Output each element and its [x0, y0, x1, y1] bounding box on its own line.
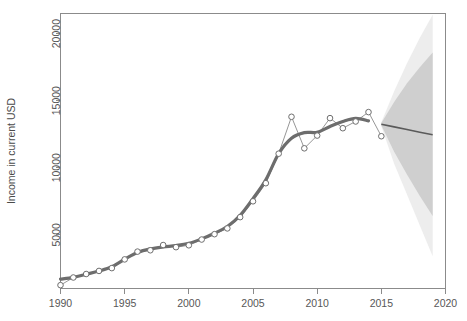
y-tick-label: 10000 [50, 153, 62, 182]
y-axis-title: Income in current USD [5, 97, 17, 204]
data-point-marker [109, 265, 115, 271]
data-point-marker [353, 119, 359, 125]
data-point-marker [186, 243, 192, 249]
x-axis-ticks: 1990199520002005201020152020 [49, 289, 458, 309]
data-point-marker [148, 247, 154, 253]
data-point-marker [83, 271, 89, 277]
x-tick-label: 2015 [370, 297, 394, 309]
x-tick-label: 2020 [434, 297, 458, 309]
smoothed-trend-line [61, 118, 369, 279]
data-point-marker [250, 199, 256, 205]
income-forecast-chart: 5000100001500020000 19901995200020052010… [0, 0, 467, 321]
data-point-marker [289, 114, 295, 120]
plot-frame [61, 14, 446, 289]
data-point-marker [173, 244, 179, 250]
y-tick-label: 15000 [50, 86, 62, 115]
y-tick-label: 5000 [50, 223, 62, 247]
x-tick-label: 2005 [241, 297, 265, 309]
data-point-marker [212, 231, 218, 237]
x-tick-label: 1995 [113, 297, 137, 309]
x-tick-label: 2000 [177, 297, 201, 309]
data-point-marker [302, 146, 308, 152]
chart-container: 5000100001500020000 19901995200020052010… [0, 0, 467, 321]
data-point-marker [379, 133, 385, 139]
data-point-marker [225, 226, 231, 232]
data-point-marker [96, 268, 102, 274]
x-tick-label: 1990 [49, 297, 73, 309]
data-point-marker [314, 133, 320, 139]
data-point-marker [71, 275, 77, 281]
data-point-marker [237, 214, 243, 220]
data-point-marker [276, 151, 282, 157]
data-point-marker [58, 282, 64, 288]
data-point-marker [135, 249, 141, 255]
data-point-marker [366, 109, 372, 115]
observed-data-points [58, 109, 384, 288]
prediction-bands [381, 15, 432, 256]
y-axis-ticks: 5000100001500020000 [50, 19, 62, 247]
data-point-marker [263, 180, 269, 186]
plot-box [61, 14, 446, 289]
data-point-marker [327, 115, 333, 121]
y-tick-label: 20000 [50, 19, 62, 48]
data-point-marker [199, 237, 205, 243]
data-point-marker [160, 242, 166, 248]
x-tick-label: 2010 [305, 297, 329, 309]
observed-series-line [61, 112, 382, 285]
data-layer [58, 109, 433, 288]
data-point-marker [340, 125, 346, 131]
data-point-marker [122, 257, 128, 263]
